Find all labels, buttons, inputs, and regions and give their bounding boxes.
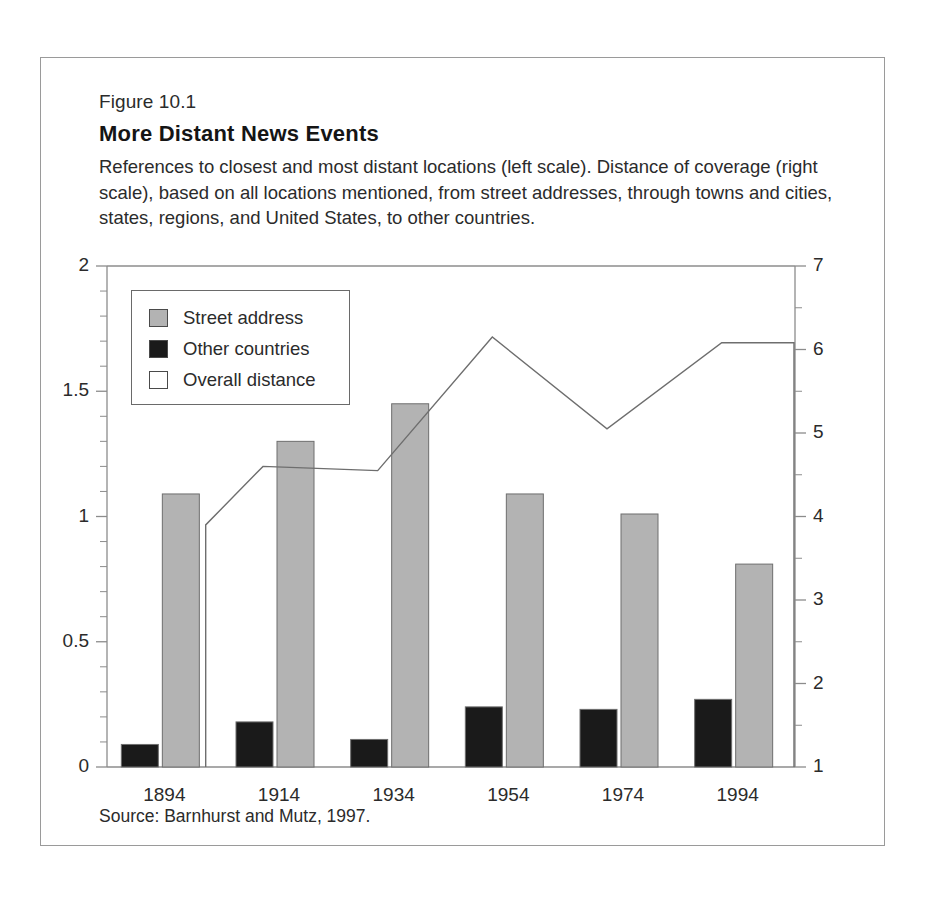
chart-bar <box>736 564 773 767</box>
legend-item-label: Other countries <box>183 338 309 360</box>
chart-bar <box>465 707 502 767</box>
figure-frame: Figure 10.1 More Distant News Events Ref… <box>40 57 885 846</box>
chart-bar <box>506 494 543 767</box>
legend-item: Street address <box>132 302 349 333</box>
legend-item: Overall distance <box>132 364 349 395</box>
x-axis-tick-label: 1914 <box>229 784 329 806</box>
chart-bar <box>392 404 429 767</box>
x-axis-tick-label: 1934 <box>344 784 444 806</box>
chart-plot-area <box>41 58 886 847</box>
chart-bars-group <box>121 404 772 767</box>
y-axis-right-tick-label: 4 <box>813 505 853 527</box>
chart-bar <box>580 709 617 767</box>
legend-swatch-white-icon <box>149 371 168 389</box>
chart-bar <box>351 739 388 767</box>
chart-bar <box>695 699 732 767</box>
x-axis-tick-label: 1974 <box>573 784 673 806</box>
y-axis-left-tick-label: 1 <box>43 505 89 527</box>
source-note: Source: Barnhurst and Mutz, 1997. <box>99 806 370 827</box>
legend-swatch-black-icon <box>149 340 168 358</box>
chart-bar <box>162 494 199 767</box>
y-axis-right-tick-label: 6 <box>813 338 853 360</box>
y-axis-right-tick-label: 7 <box>813 254 853 276</box>
y-axis-left-tick-label: 0 <box>43 755 89 777</box>
legend-item: Other countries <box>132 333 349 364</box>
y-axis-left-tick-label: 0.5 <box>43 630 89 652</box>
legend-swatch-gray-icon <box>149 309 168 327</box>
legend-item-label: Overall distance <box>183 369 316 391</box>
chart-bar <box>121 744 158 767</box>
y-axis-right-tick-label: 2 <box>813 672 853 694</box>
chart-bar <box>236 722 273 767</box>
y-axis-right-tick-label: 1 <box>813 755 853 777</box>
chart-bar <box>621 514 658 767</box>
legend-item-label: Street address <box>183 307 303 329</box>
x-axis-tick-label: 1894 <box>114 784 214 806</box>
x-axis-tick-label: 1994 <box>688 784 788 806</box>
y-axis-left-tick-label: 2 <box>43 254 89 276</box>
x-axis-tick-label: 1954 <box>458 784 558 806</box>
y-axis-right-tick-label: 5 <box>813 421 853 443</box>
chart-bar <box>277 441 314 767</box>
chart-legend: Street addressOther countriesOverall dis… <box>131 290 350 405</box>
y-axis-right-tick-label: 3 <box>813 588 853 610</box>
y-axis-left-tick-label: 1.5 <box>43 379 89 401</box>
